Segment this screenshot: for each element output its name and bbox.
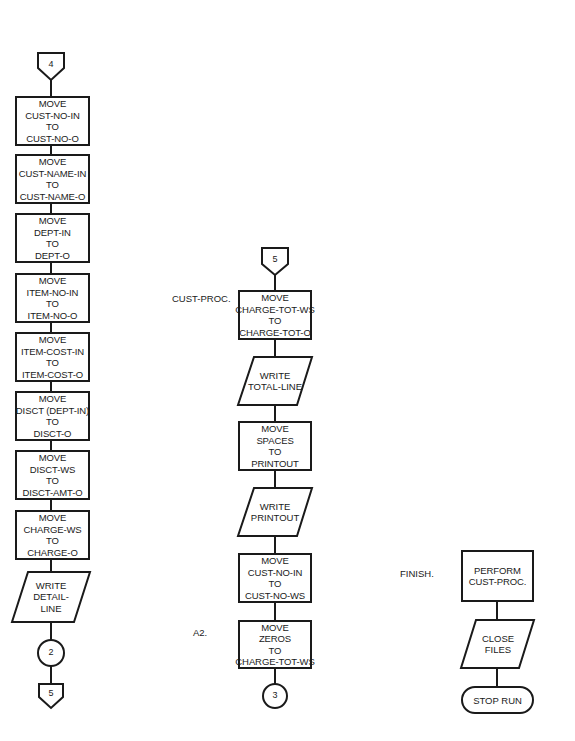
step-text: MOVE — [39, 512, 67, 524]
step-move-charge-ws: MOVE CHARGE-WS TO CHARGE-O — [15, 510, 90, 560]
step-text: TO — [46, 121, 59, 133]
step-text: MOVE — [39, 452, 67, 464]
step-text: WRITE — [260, 370, 291, 382]
step-text: PRINTOUT — [251, 512, 299, 524]
step-text: CHARGE-TOT-O — [239, 327, 310, 339]
step-text: MOVE — [39, 215, 67, 227]
step-text: TO — [46, 298, 59, 310]
io-close-files: CLOSE FILES — [463, 620, 533, 668]
step-text: CUST-NO-IN — [248, 567, 302, 579]
step-text: DISCT-WS — [30, 464, 76, 476]
step-text: MOVE — [261, 292, 289, 304]
step-text: PRINTOUT — [251, 458, 299, 470]
step-text: CLOSE — [482, 633, 514, 645]
label-cust-proc: CUST-PROC. — [172, 293, 231, 304]
step-text: CUST-NAME-IN — [19, 168, 86, 180]
step-text: LINE — [40, 603, 61, 615]
step-move-item-no: MOVE ITEM-NO-IN TO ITEM-NO-O — [15, 273, 90, 323]
step-text: ZEROS — [259, 633, 291, 645]
step-text: CHARGE-WS — [23, 524, 81, 536]
step-text: CUST-NO-WS — [245, 590, 305, 602]
step-text: MOVE — [261, 555, 289, 567]
step-text: ITEM-NO-O — [28, 310, 78, 322]
step-move-disct-ws: MOVE DISCT-WS TO DISCT-AMT-O — [15, 450, 90, 500]
step-move-spaces: MOVE SPACES TO PRINTOUT — [238, 421, 312, 471]
step-text: CHARGE-TOT-WS — [235, 304, 314, 316]
step-text: CHARGE-TOT-WS — [235, 656, 314, 668]
io-write-printout: WRITE PRINTOUT — [240, 488, 310, 536]
step-text: DISCT-AMT-O — [22, 487, 82, 499]
step-move-cust-no-ws: MOVE CUST-NO-IN TO CUST-NO-WS — [238, 553, 312, 603]
terminator-stop-run: STOP RUN — [461, 686, 534, 714]
step-text: STOP RUN — [473, 695, 522, 706]
step-text: MOVE — [261, 622, 289, 634]
step-text: WRITE — [36, 580, 67, 592]
step-text: FILES — [485, 644, 511, 656]
io-write-total-line: WRITE TOTAL-LINE — [240, 357, 310, 405]
step-text: SPACES — [256, 435, 293, 447]
step-text: CUST-NO-O — [26, 133, 78, 145]
step-text: MOVE — [39, 98, 67, 110]
step-text: ITEM-COST-O — [22, 369, 83, 381]
step-text: TO — [46, 238, 59, 250]
connector-3: 3 — [265, 690, 285, 700]
step-text: DEPT-IN — [34, 227, 71, 239]
step-text: TO — [46, 416, 59, 428]
step-text: DISCT-O — [34, 428, 72, 440]
step-text: TO — [269, 446, 282, 458]
step-text: TOTAL-LINE — [248, 381, 302, 393]
offpage-connector-5-entry: 5 — [265, 254, 285, 264]
step-move-charge-tot: MOVE CHARGE-TOT-WS TO CHARGE-TOT-O — [238, 290, 312, 340]
step-text: MOVE — [39, 275, 67, 287]
step-text: TO — [46, 475, 59, 487]
step-text: DEPT-O — [35, 250, 70, 262]
step-text: TO — [46, 179, 59, 191]
step-move-disct: MOVE DISCT (DEPT-IN) TO DISCT-O — [15, 391, 90, 441]
step-text: DISCT (DEPT-IN) — [16, 405, 89, 417]
connector-2: 2 — [41, 647, 61, 657]
step-move-item-cost: MOVE ITEM-COST-IN TO ITEM-COST-O — [15, 332, 90, 382]
step-move-cust-name: MOVE CUST-NAME-IN TO CUST-NAME-O — [15, 154, 90, 204]
label-finish: FINISH. — [400, 568, 434, 579]
step-text: MOVE — [39, 334, 67, 346]
step-text: DETAIL- — [33, 591, 69, 603]
step-text: PERFORM — [474, 565, 521, 577]
step-text: MOVE — [39, 393, 67, 405]
step-text: TO — [269, 315, 282, 327]
offpage-connector-5: 5 — [41, 688, 61, 698]
io-write-detail-line: WRITE DETAIL- LINE — [15, 572, 87, 622]
step-text: WRITE — [260, 501, 291, 513]
step-move-dept: MOVE DEPT-IN TO DEPT-O — [15, 213, 90, 263]
label-a2: A2. — [193, 627, 207, 638]
step-text: MOVE — [261, 423, 289, 435]
step-text: ITEM-NO-IN — [27, 287, 79, 299]
offpage-connector-4: 4 — [41, 59, 61, 69]
step-move-zeros: MOVE ZEROS TO CHARGE-TOT-WS — [238, 620, 312, 669]
step-text: CHARGE-O — [27, 547, 77, 559]
step-move-cust-no: MOVE CUST-NO-IN TO CUST-NO-O — [15, 96, 90, 146]
step-text: CUST-NO-IN — [25, 110, 79, 122]
step-perform-cust-proc: PERFORM CUST-PROC. — [461, 550, 534, 602]
step-text: MOVE — [39, 156, 67, 168]
step-text: TO — [46, 357, 59, 369]
step-text: ITEM-COST-IN — [21, 346, 84, 358]
step-text: CUST-NAME-O — [20, 191, 85, 203]
step-text: TO — [269, 578, 282, 590]
step-text: CUST-PROC. — [469, 576, 527, 588]
step-text: TO — [46, 535, 59, 547]
step-text: TO — [269, 645, 282, 657]
